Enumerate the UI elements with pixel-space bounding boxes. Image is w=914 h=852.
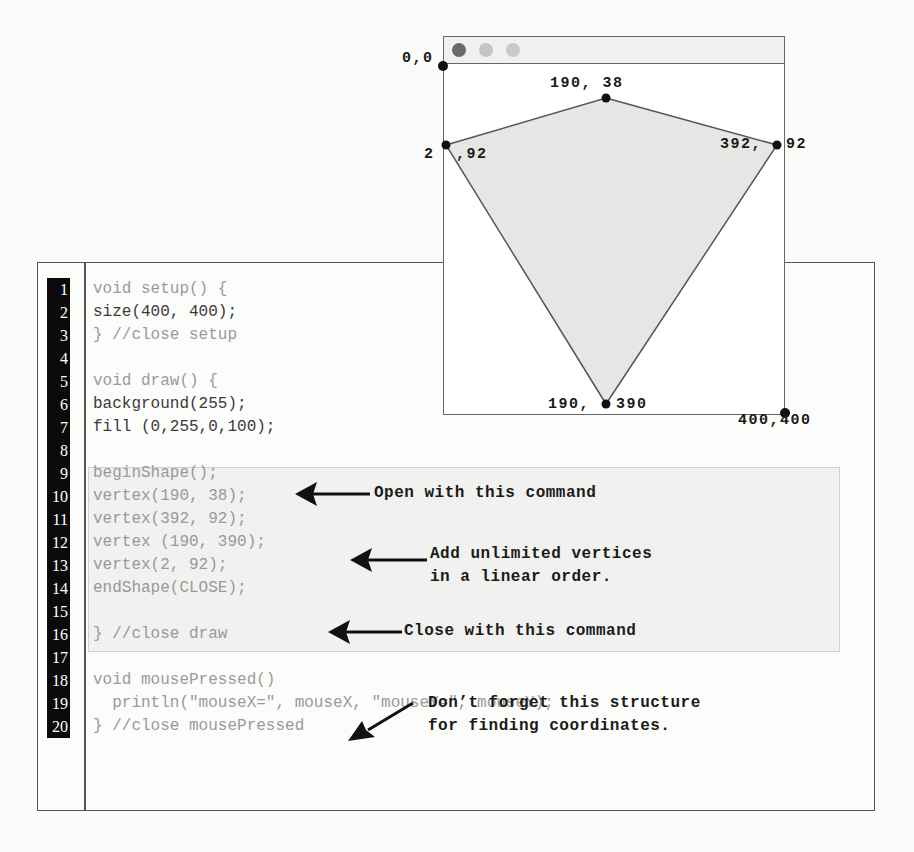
arrow-mouse-icon — [348, 703, 413, 741]
vertex-dot-icon — [602, 400, 611, 409]
vertex-label-top: 190, 38 — [550, 75, 624, 92]
origin-dot-icon — [438, 61, 448, 71]
vertex-dot-icon — [442, 141, 451, 150]
vertex-label-bottom-a: 190, — [548, 396, 590, 413]
bottom-right-label: 400,400 — [738, 412, 812, 429]
vertex-label-right-a: 392, — [720, 136, 762, 153]
origin-label: 0,0 — [402, 50, 434, 67]
vertex-label-left-b: ,92 — [456, 146, 488, 163]
arrow-close-icon — [328, 620, 402, 644]
annotation-open: Open with this command — [374, 484, 596, 502]
annotation-dont-line1: Don’t forget this structure — [428, 694, 701, 712]
vertex-label-right-b: 92 — [786, 136, 807, 153]
vertex-label-bottom-b: 390 — [616, 396, 648, 413]
arrow-open-icon — [295, 482, 370, 506]
vertex-dot-icon — [773, 141, 782, 150]
annotation-dont-line2: for finding coordinates. — [428, 717, 670, 735]
arrow-add-icon — [350, 548, 427, 572]
annotation-add-line2: in a linear order. — [430, 568, 612, 586]
annotation-close: Close with this command — [404, 622, 636, 640]
vertex-label-left-a: 2 — [424, 146, 435, 163]
vertex-dot-icon — [602, 94, 611, 103]
annotation-add-line1: Add unlimited vertices — [430, 545, 652, 563]
